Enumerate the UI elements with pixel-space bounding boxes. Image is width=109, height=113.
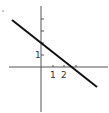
x-tick-label-1: 1 bbox=[50, 70, 56, 80]
marker-dot bbox=[2, 10, 4, 12]
x-tick-label-2: 2 bbox=[61, 70, 67, 80]
chart: 1 1 2 bbox=[0, 0, 109, 113]
y-tick-label-1: 1 bbox=[35, 50, 41, 60]
